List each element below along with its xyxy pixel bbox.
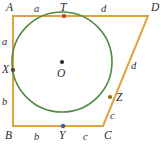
side-label-td: d xyxy=(101,3,106,14)
side-label-zc: c xyxy=(110,110,115,121)
side-label-yc: c xyxy=(83,131,88,142)
tangent-label-x: X xyxy=(2,64,9,75)
tangent-label-z: Z xyxy=(116,92,122,103)
geometry-figure: A D C B O T Z Y X a d a b d c b c xyxy=(0,0,161,145)
vertex-label-b: B xyxy=(5,130,12,141)
vertex-label-c: C xyxy=(104,130,112,141)
side-label-by: b xyxy=(34,131,39,142)
figure-canvas xyxy=(0,0,161,145)
point-z-marker xyxy=(108,95,112,99)
point-y-marker xyxy=(61,124,65,128)
side-label-at: a xyxy=(34,3,39,14)
point-t-marker xyxy=(62,14,66,18)
side-label-ax: a xyxy=(2,36,7,47)
point-o-marker xyxy=(60,60,64,64)
tangent-label-y: Y xyxy=(59,130,65,141)
tangent-label-t: T xyxy=(60,2,66,13)
center-label-o: O xyxy=(57,68,65,79)
quadrilateral-abcd xyxy=(13,16,148,126)
side-label-dz: d xyxy=(131,60,136,71)
side-label-xb: b xyxy=(2,96,7,107)
point-x-marker xyxy=(11,68,15,72)
vertex-label-d: D xyxy=(151,2,159,13)
vertex-label-a: A xyxy=(6,2,13,13)
